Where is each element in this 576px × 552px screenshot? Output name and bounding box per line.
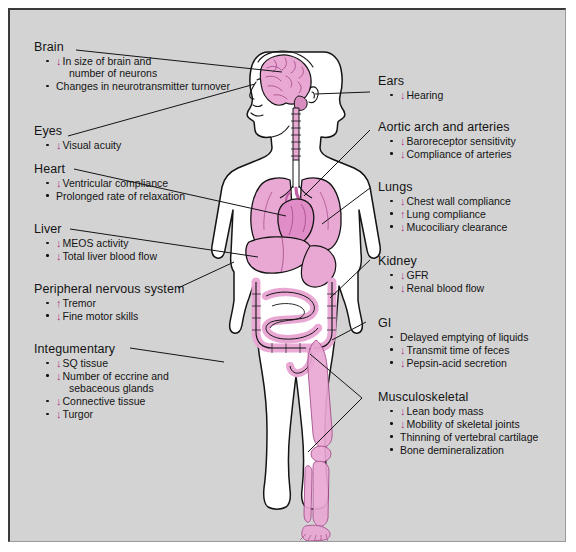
label-list-brain: ↓In size of brain andnumber of neurons C… xyxy=(34,55,230,93)
label-title-kidney: Kidney xyxy=(378,254,484,268)
diagram-page: Brain ↓In size of brain andnumber of neu… xyxy=(0,0,576,552)
list-item-text: Prolonged rate of relaxation xyxy=(56,190,185,202)
bullet-dot xyxy=(46,400,49,403)
list-item-continuation: number of neurons xyxy=(56,67,230,79)
list-item: Prolonged rate of relaxation xyxy=(46,190,185,202)
bullet-dot xyxy=(390,410,393,413)
list-item: ↓Visual acuity xyxy=(46,139,121,151)
label-title-ears: Ears xyxy=(378,74,443,88)
list-item-text: Baroreceptor sensitivity xyxy=(407,135,516,147)
arrow-icon: ↓ xyxy=(56,251,62,262)
list-item-text: Tremor xyxy=(63,297,96,309)
label-list-ears: ↓Hearing xyxy=(378,89,443,101)
list-item: Thinning of vertebral cartilage xyxy=(390,431,538,443)
bullet-dot xyxy=(46,182,49,185)
label-title-heart: Heart xyxy=(34,162,185,176)
arrow-icon: ↓ xyxy=(400,196,406,207)
bullet-dot xyxy=(390,336,393,339)
list-item: ↑Tremor xyxy=(46,297,184,309)
list-item-text: Pepsin-acid secretion xyxy=(407,357,507,369)
label-block-peripheral-nervous-system: Peripheral nervous system ↑Tremor ↓Fine … xyxy=(34,282,184,323)
bullet-dot xyxy=(46,254,49,257)
list-item-text: Compliance of arteries xyxy=(407,148,512,160)
list-item-text: Lean body mass xyxy=(407,405,484,417)
bullet-dot xyxy=(390,274,393,277)
bullet-dot xyxy=(390,448,393,451)
list-item: ↑Lung compliance xyxy=(390,208,511,220)
list-item-text: Changes in neurotransmitter turnover xyxy=(56,80,230,92)
label-list-heart: ↓Ventricular compliance Prolonged rate o… xyxy=(34,177,185,202)
label-block-heart: Heart ↓Ventricular compliance Prolonged … xyxy=(34,162,185,203)
list-item-text: Renal blood flow xyxy=(407,282,485,294)
arrow-icon: ↓ xyxy=(400,90,406,101)
label-block-musculoskeletal: Musculoskeletal ↓Lean body mass ↓Mobilit… xyxy=(378,390,538,457)
arrow-icon: ↓ xyxy=(56,56,62,67)
arrow-icon: ↓ xyxy=(400,149,406,160)
bullet-dot xyxy=(46,242,49,245)
label-list-kidney: ↓GFR ↓Renal blood flow xyxy=(378,269,484,294)
list-item: ↓GFR xyxy=(390,269,484,281)
arrow-icon: ↓ xyxy=(56,396,62,407)
bullet-dot xyxy=(390,286,393,289)
arrow-icon: ↓ xyxy=(56,409,62,420)
bullet-dot xyxy=(390,152,393,155)
bullet-dot xyxy=(46,302,49,305)
label-title-gi: GI xyxy=(378,316,528,330)
bullet-dot xyxy=(390,200,393,203)
list-item-continuation: sebaceous glands xyxy=(56,382,169,394)
label-block-brain: Brain ↓In size of brain andnumber of neu… xyxy=(34,40,230,93)
label-list-peripheral-nervous-system: ↑Tremor ↓Fine motor skills xyxy=(34,297,184,322)
bullet-dot xyxy=(46,60,49,63)
list-item: Delayed emptying of liquids xyxy=(390,331,528,343)
arrow-icon: ↓ xyxy=(400,419,406,430)
list-item: ↓Renal blood flow xyxy=(390,282,484,294)
label-block-gi: GI Delayed emptying of liquids ↓Transmit… xyxy=(378,316,528,370)
arrow-icon: ↑ xyxy=(400,209,406,220)
bullet-dot xyxy=(390,361,393,364)
list-item-text: Mobility of skeletal joints xyxy=(407,418,520,430)
bullet-dot xyxy=(390,225,393,228)
list-item: ↓Hearing xyxy=(390,89,443,101)
list-item: ↓Lean body mass xyxy=(390,405,538,417)
bullet-dot xyxy=(390,140,393,143)
arrow-icon: ↓ xyxy=(56,371,62,382)
list-item-text: MEOS activity xyxy=(63,237,129,249)
list-item: ↓Mobility of skeletal joints xyxy=(390,418,538,430)
label-title-lungs: Lungs xyxy=(378,180,511,194)
arrow-icon: ↓ xyxy=(56,238,62,249)
label-title-eyes: Eyes xyxy=(34,124,121,138)
list-item-text: Connective tissue xyxy=(63,395,146,407)
list-item: ↓Pepsin-acid secretion xyxy=(390,357,528,369)
arrow-icon: ↓ xyxy=(400,358,406,369)
list-item: ↓Connective tissue xyxy=(46,395,169,407)
list-item: ↓Turgor xyxy=(46,408,169,420)
list-item: ↓Chest wall compliance xyxy=(390,195,511,207)
label-block-liver: Liver ↓MEOS activity ↓Total liver blood … xyxy=(34,222,157,263)
label-block-lungs: Lungs ↓Chest wall compliance ↑Lung compl… xyxy=(378,180,511,234)
list-item: ↓Fine motor skills xyxy=(46,310,184,322)
arrow-icon: ↑ xyxy=(56,298,62,309)
bullet-dot xyxy=(46,362,49,365)
list-item: ↓Number of eccrine andsebaceous glands xyxy=(46,370,169,395)
label-block-ears: Ears ↓Hearing xyxy=(378,74,443,102)
list-item-text: Fine motor skills xyxy=(63,310,139,322)
label-title-musculoskeletal: Musculoskeletal xyxy=(378,390,538,404)
label-list-gi: Delayed emptying of liquids ↓Transmit ti… xyxy=(378,331,528,369)
arrow-icon: ↓ xyxy=(56,358,62,369)
bullet-dot xyxy=(390,94,393,97)
label-title-liver: Liver xyxy=(34,222,157,236)
list-item-text: GFR xyxy=(407,269,429,281)
bullet-dot xyxy=(46,314,49,317)
list-item-text: Total liver blood flow xyxy=(63,250,158,262)
arrow-icon: ↓ xyxy=(56,140,62,151)
label-list-musculoskeletal: ↓Lean body mass ↓Mobility of skeletal jo… xyxy=(378,405,538,456)
list-item: ↓MEOS activity xyxy=(46,237,157,249)
bullet-dot xyxy=(46,144,49,147)
diagram-panel: Brain ↓In size of brain andnumber of neu… xyxy=(8,8,566,542)
bullet-dot xyxy=(46,194,49,197)
list-item: ↓SQ tissue xyxy=(46,357,169,369)
list-item: ↓In size of brain andnumber of neurons xyxy=(46,55,230,80)
label-title-aortic-arch-and-arteries: Aortic arch and arteries xyxy=(378,120,516,134)
list-item-text: Chest wall compliance xyxy=(407,195,511,207)
label-block-aortic-arch-and-arteries: Aortic arch and arteries ↓Baroreceptor s… xyxy=(378,120,516,161)
